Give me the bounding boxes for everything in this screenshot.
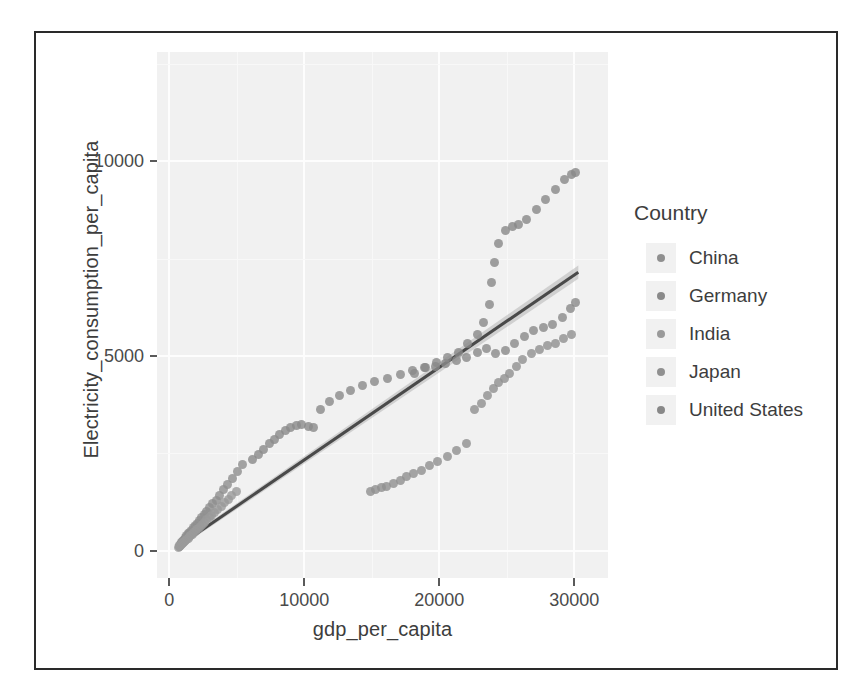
legend-item-label: China — [689, 247, 739, 269]
data-point — [473, 330, 482, 339]
data-point — [473, 348, 482, 357]
scatter-plot: Electricity_consumption_per_capita 05000… — [36, 33, 836, 668]
legend: Country ChinaGermanyIndiaJapanUnited Sta… — [632, 201, 822, 429]
x-axis-title: gdp_per_capita — [157, 618, 608, 641]
data-point — [346, 386, 355, 395]
data-point — [463, 339, 472, 348]
y-tick-label: 5000 — [58, 345, 144, 366]
y-axis: 0500010000 — [62, 33, 158, 668]
legend-key-swatch — [646, 281, 676, 311]
legend-key-swatch — [646, 319, 676, 349]
legend-dot-icon — [657, 292, 665, 300]
data-point — [443, 353, 452, 362]
data-point — [490, 258, 499, 267]
legend-dot-icon — [657, 406, 665, 414]
data-point — [501, 346, 510, 355]
x-tick-mark — [438, 578, 440, 586]
data-point — [558, 313, 567, 322]
legend-key-swatch — [646, 243, 676, 273]
data-point — [510, 339, 519, 348]
data-point — [396, 370, 405, 379]
data-point — [567, 330, 576, 339]
data-point — [432, 358, 441, 367]
data-point — [454, 348, 463, 357]
data-point — [485, 300, 494, 309]
y-tick-label: 0 — [58, 540, 144, 561]
legend-item-united-states[interactable]: United States — [632, 391, 822, 429]
x-tick-label: 10000 — [249, 590, 359, 611]
data-point — [520, 332, 529, 341]
figure-frame: Electricity_consumption_per_capita 05000… — [34, 31, 838, 670]
data-point — [462, 353, 471, 362]
data-point — [477, 399, 486, 408]
data-point — [335, 391, 344, 400]
legend-dot-icon — [657, 254, 665, 262]
legend-items: ChinaGermanyIndiaJapanUnited States — [632, 239, 822, 429]
data-point — [316, 405, 325, 414]
data-point — [532, 205, 541, 214]
legend-dot-icon — [657, 330, 665, 338]
x-tick-mark — [168, 578, 170, 586]
legend-key-swatch — [646, 357, 676, 387]
data-point — [551, 185, 560, 194]
data-points-layer — [157, 52, 608, 578]
legend-item-china[interactable]: China — [632, 239, 822, 277]
x-tick-label: 20000 — [384, 590, 494, 611]
plot-panel — [157, 52, 608, 578]
data-point — [232, 487, 241, 496]
x-axis: 0100002000030000 — [36, 578, 836, 618]
legend-item-label: United States — [689, 399, 803, 421]
trend-line — [179, 272, 579, 546]
legend-item-label: India — [689, 323, 730, 345]
legend-key-swatch — [646, 395, 676, 425]
x-tick-mark — [573, 578, 575, 586]
data-point — [358, 381, 367, 390]
x-tick-label: 30000 — [519, 590, 629, 611]
legend-dot-icon — [657, 368, 665, 376]
y-tick-label: 10000 — [58, 151, 144, 172]
data-point — [370, 377, 379, 386]
legend-item-label: Japan — [689, 361, 741, 383]
data-point — [539, 323, 548, 332]
data-point — [571, 298, 580, 307]
legend-item-india[interactable]: India — [632, 315, 822, 353]
legend-item-japan[interactable]: Japan — [632, 353, 822, 391]
legend-item-germany[interactable]: Germany — [632, 277, 822, 315]
data-point — [479, 318, 488, 327]
data-point — [482, 344, 491, 353]
legend-item-label: Germany — [689, 285, 767, 307]
x-tick-mark — [303, 578, 305, 586]
data-point — [443, 452, 452, 461]
x-tick-label: 0 — [114, 590, 224, 611]
legend-title: Country — [634, 201, 822, 225]
